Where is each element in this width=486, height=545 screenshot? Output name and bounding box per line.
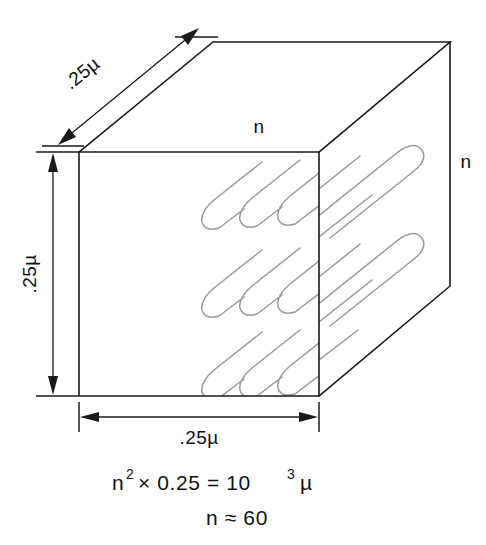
- serpentine-trace: [202, 250, 262, 317]
- serpentine-trace: [319, 244, 360, 277]
- serpentine-trace: [278, 246, 338, 313]
- equation-line1-base: n: [112, 471, 124, 494]
- serpentine-trace: [278, 158, 338, 225]
- serpentine-trace: [319, 156, 360, 189]
- depth-dimension-group: .25µ: [42, 28, 218, 146]
- serpentine-row-1: [202, 158, 338, 229]
- height-dimension-group: .25µ: [19, 152, 78, 396]
- cube-diagram-svg: .25µ .25µ .25µ n n n 2 × 0.25: [0, 0, 486, 545]
- cube-right-face-outline: [319, 42, 450, 396]
- height-dimension-label: .25µ: [19, 255, 40, 294]
- height-dim-arrow-top: [48, 153, 58, 172]
- cube-front-face-outline: [79, 152, 319, 396]
- width-dim-arrow-left: [80, 412, 99, 422]
- serpentine-trace: [319, 195, 372, 237]
- width-dim-arrow-right: [299, 412, 318, 422]
- top-face-label-n: n: [253, 116, 264, 137]
- serpentine-trace: [202, 332, 262, 399]
- equation-line2: n ≈ 60: [206, 506, 268, 529]
- depth-dimension-label: .25µ: [60, 53, 104, 94]
- equation-line1-exponent: 2: [126, 466, 134, 482]
- diagram-root: .25µ .25µ .25µ n n n 2 × 0.25: [0, 0, 486, 545]
- width-dimension-group: .25µ: [79, 402, 319, 448]
- serpentine-row-3: [202, 328, 338, 399]
- depth-dim-arrow-lower: [58, 128, 76, 145]
- serpentine-trace: [240, 248, 300, 315]
- serpentine-trace: [240, 160, 300, 227]
- serpentine-row-3-right: [319, 280, 372, 360]
- equation-line1-unit: µ: [300, 471, 313, 494]
- right-face-label-n: n: [460, 151, 471, 172]
- serpentine-coil-group: [202, 107, 424, 399]
- serpentine-row-2: [202, 246, 338, 317]
- serpentine-trace: [202, 162, 262, 229]
- serpentine-trace: [278, 328, 338, 395]
- equation-line1-rest: × 0.25 = 10: [138, 471, 251, 494]
- cube-wireframe: [79, 42, 450, 396]
- serpentine-trace: [240, 330, 300, 397]
- equation-block: n 2 × 0.25 = 10 3 µ n ≈ 60: [112, 466, 313, 529]
- serpentine-trace: [319, 330, 358, 360]
- serpentine-trace: [306, 233, 424, 326]
- height-dim-arrow-bottom: [48, 376, 58, 395]
- serpentine-trace: [319, 280, 372, 322]
- serpentine-row-2-right: [306, 195, 424, 326]
- width-dimension-label: .25µ: [180, 427, 219, 448]
- serpentine-row-1-right: [306, 107, 424, 238]
- equation-line1-exponent2: 3: [287, 466, 295, 482]
- serpentine-trace: [306, 145, 424, 238]
